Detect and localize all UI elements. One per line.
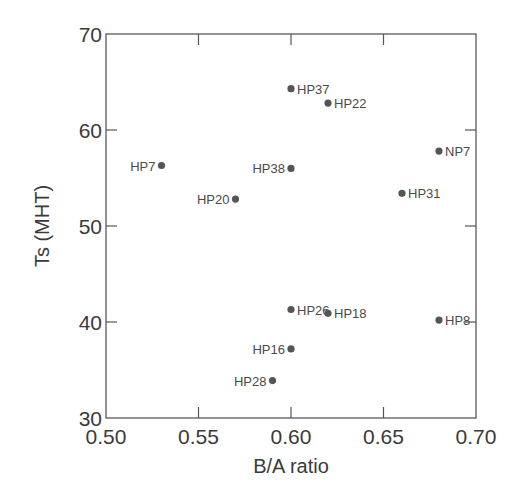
point-label: HP16 xyxy=(252,342,285,357)
data-point-hp22: HP22 xyxy=(324,96,366,111)
point-marker xyxy=(287,306,294,313)
data-point-hp20: HP20 xyxy=(197,192,239,207)
x-axis-title: B/A ratio xyxy=(253,455,329,477)
data-points: HP37HP22NP7HP7HP38HP31HP20HP26HP18HP8HP1… xyxy=(130,82,470,389)
data-point-hp18: HP18 xyxy=(324,306,366,321)
point-label: HP22 xyxy=(334,96,367,111)
x-tick-label: 0.60 xyxy=(271,425,312,448)
point-label: HP31 xyxy=(408,186,441,201)
point-marker xyxy=(232,196,239,203)
point-marker xyxy=(287,165,294,172)
y-axis: 3040506070 xyxy=(79,23,476,430)
point-label: NP7 xyxy=(445,144,470,159)
y-tick-label: 60 xyxy=(79,119,102,142)
point-label: HP7 xyxy=(130,159,155,174)
data-point-np7: NP7 xyxy=(435,144,470,159)
point-label: HP18 xyxy=(334,306,367,321)
point-label: HP20 xyxy=(197,192,230,207)
point-marker xyxy=(269,377,276,384)
y-tick-label: 30 xyxy=(79,407,102,430)
point-label: HP37 xyxy=(297,82,330,97)
data-point-hp31: HP31 xyxy=(398,186,440,201)
point-marker xyxy=(435,316,442,323)
y-tick-label: 40 xyxy=(79,311,102,334)
x-axis: 0.500.550.600.650.70 xyxy=(86,34,497,448)
data-point-hp28: HP28 xyxy=(234,374,276,389)
data-point-hp37: HP37 xyxy=(287,82,329,97)
point-marker xyxy=(324,310,331,317)
point-label: HP8 xyxy=(445,313,470,328)
point-marker xyxy=(158,162,165,169)
point-marker xyxy=(287,85,294,92)
data-point-hp38: HP38 xyxy=(252,161,294,176)
scatter-chart: 0.500.550.600.650.70 3040506070 HP37HP22… xyxy=(0,0,527,498)
x-tick-label: 0.65 xyxy=(363,425,404,448)
data-point-hp26: HP26 xyxy=(287,303,329,318)
point-label: HP26 xyxy=(297,303,330,318)
point-label: HP38 xyxy=(252,161,285,176)
point-marker xyxy=(324,100,331,107)
data-point-hp7: HP7 xyxy=(130,159,165,174)
point-marker xyxy=(287,345,294,352)
x-tick-label: 0.70 xyxy=(456,425,497,448)
y-axis-title: Ts (MHT) xyxy=(31,185,53,267)
y-tick-label: 50 xyxy=(79,215,102,238)
point-marker xyxy=(398,190,405,197)
data-point-hp16: HP16 xyxy=(252,342,294,357)
point-label: HP28 xyxy=(234,374,267,389)
y-tick-label: 70 xyxy=(79,23,102,46)
x-tick-label: 0.55 xyxy=(178,425,219,448)
data-point-hp8: HP8 xyxy=(435,313,470,328)
point-marker xyxy=(435,148,442,155)
